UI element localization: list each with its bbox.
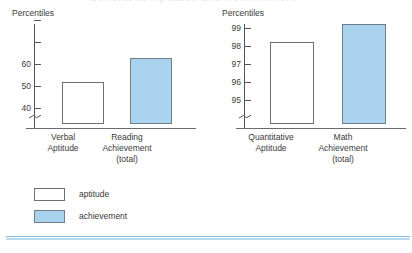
y-tick-80: [34, 20, 41, 21]
blue-swatch-icon: [34, 210, 65, 223]
y-tick-label-60: 60: [22, 59, 31, 69]
rule-line-secondary: [6, 238, 410, 239]
y-axis-title: Percentiles: [222, 8, 264, 18]
category-label-quantitative-aptitude: Quantitative Aptitude: [232, 132, 310, 154]
bar-verbal-aptitude[interactable]: [62, 82, 104, 124]
category-line: Verbal: [34, 132, 92, 143]
chart-panel-verbal-reading: Percentiles 40 50 60 Verbal Aptitude Rea…: [4, 8, 200, 173]
x-axis-line: [236, 128, 406, 129]
y-tick-label-99: 99: [232, 23, 241, 33]
category-label-verbal-aptitude: Verbal Aptitude: [34, 132, 92, 154]
legend-label-achievement: achievement: [79, 211, 127, 221]
bar-reading-achievement[interactable]: [130, 58, 172, 124]
y-tick-label-98: 98: [232, 41, 241, 51]
bar-math-achievement[interactable]: [342, 24, 386, 124]
y-tick-label-50: 50: [22, 81, 31, 91]
category-line: Achievement: [92, 143, 162, 154]
category-label-reading-achievement: Reading Achievement (total): [92, 132, 162, 165]
category-line: Quantitative: [232, 132, 310, 143]
legend-item-achievement: achievement: [34, 208, 184, 224]
clipped-title-strip: Scholastic Aptitude and Achievement: [0, 0, 412, 4]
y-tick-label-97: 97: [232, 59, 241, 69]
legend-label-aptitude: aptitude: [79, 189, 109, 199]
y-tick-label-40: 40: [22, 103, 31, 113]
rule-line-primary: [6, 236, 410, 237]
legend-item-aptitude: aptitude: [34, 186, 184, 202]
category-line: Aptitude: [34, 143, 92, 154]
category-line: (total): [92, 154, 162, 165]
clipped-title-text: Scholastic Aptitude and Achievement: [90, 0, 297, 3]
category-line: (total): [306, 154, 380, 165]
category-label-math-achievement: Math Achievement (total): [306, 132, 380, 165]
chart-panel-quantitative-math: Percentiles 95 96 97 98 99 Quantitative …: [214, 8, 410, 173]
category-line: Achievement: [306, 143, 380, 154]
category-line: Math: [306, 132, 380, 143]
bar-quantitative-aptitude[interactable]: [270, 42, 314, 124]
y-tick-label-95: 95: [232, 95, 241, 105]
x-axis-line: [26, 128, 196, 129]
category-line: Aptitude: [232, 143, 310, 154]
category-line: Reading: [92, 132, 162, 143]
plot-area: [34, 24, 194, 124]
bottom-rule-divider: [6, 236, 410, 240]
y-axis-title: Percentiles: [12, 8, 54, 18]
plot-area: [244, 24, 404, 124]
white-swatch-icon: [34, 188, 65, 201]
y-tick-label-96: 96: [232, 77, 241, 87]
figure-legend: aptitude achievement: [34, 186, 184, 230]
